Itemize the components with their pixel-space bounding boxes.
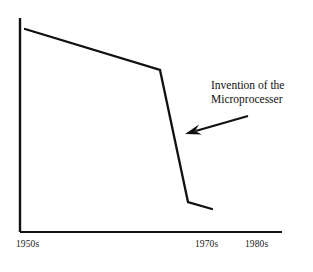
annotation-label: Invention of the Microprocesser <box>211 78 311 106</box>
data-series-line <box>25 29 212 209</box>
figure-canvas: Invention of the Microprocesser 1950s 19… <box>0 0 313 272</box>
annotation-line-2: Microprocesser <box>211 92 311 106</box>
x-tick-label-1970s: 1970s <box>195 240 218 250</box>
x-tick-label-1950s: 1950s <box>16 240 39 250</box>
chart-plot <box>0 0 313 272</box>
x-tick-label-1980s: 1980s <box>245 240 268 250</box>
annotation-line-1: Invention of the <box>211 78 311 92</box>
annotation-arrow-shaft <box>196 116 248 131</box>
